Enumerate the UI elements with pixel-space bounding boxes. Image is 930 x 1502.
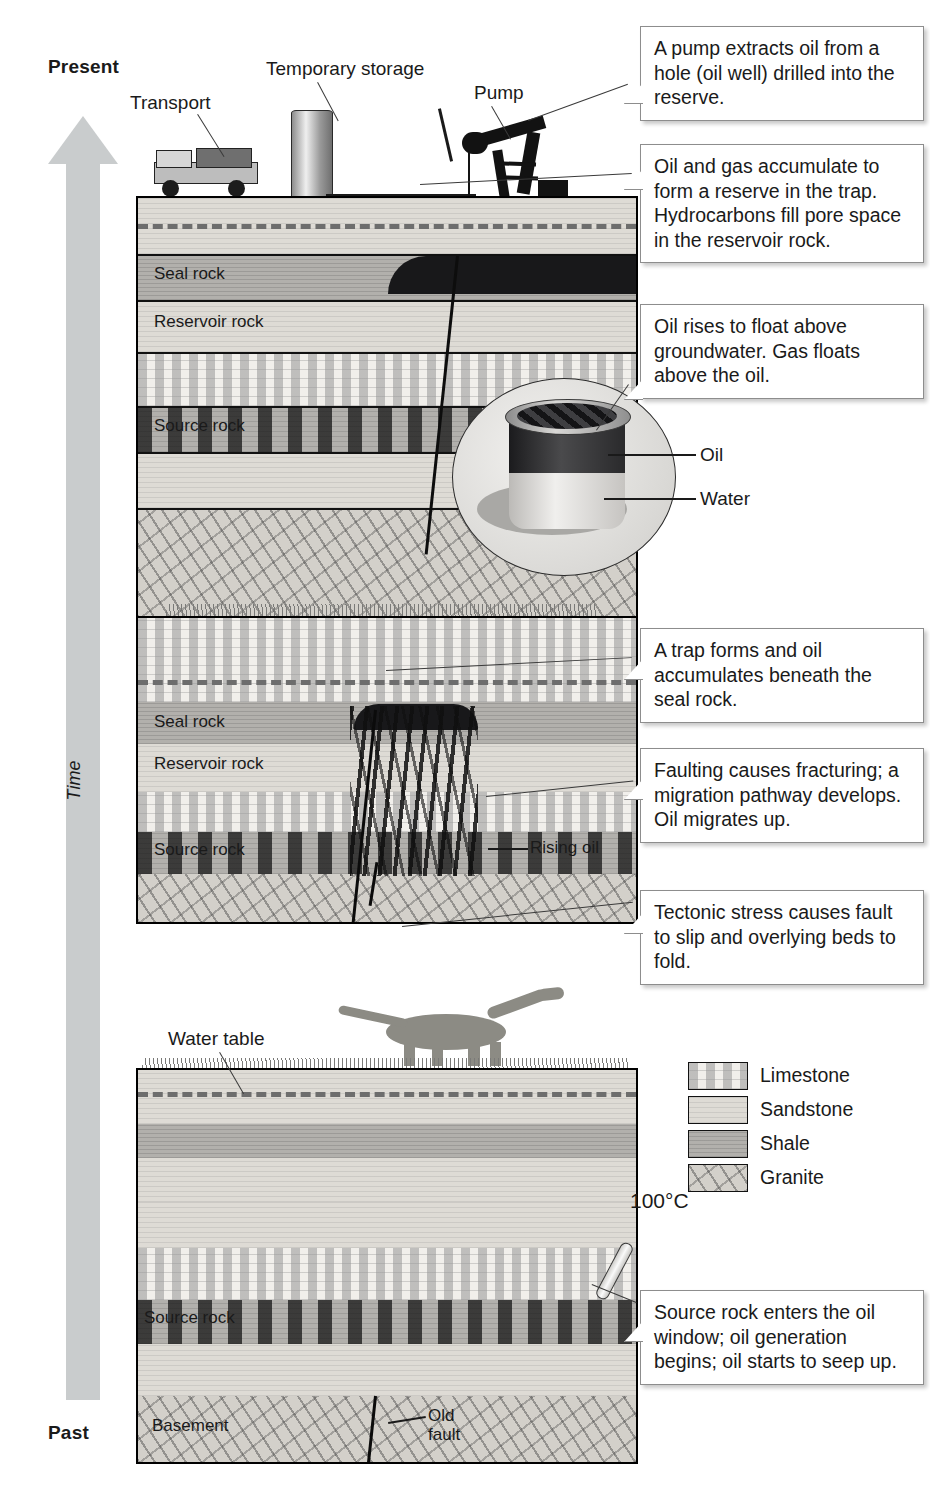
callout-oil-window: Source rock enters the oil window; oil g…: [640, 1290, 924, 1385]
rock-label-seal-rock: Seal rock: [154, 264, 225, 284]
callout-oil-window-text: Source rock enters the oil window; oil g…: [654, 1301, 897, 1372]
label-water-table: Water table: [168, 1028, 264, 1050]
label-temporary-storage: Temporary storage: [266, 58, 424, 80]
callout-trap-text: A trap forms and oil accumulates beneath…: [654, 639, 872, 710]
storage-tank-icon: [291, 110, 333, 200]
water-table-line: [138, 1092, 636, 1097]
rock-label-seal-rock: Seal rock: [154, 712, 225, 732]
water-table-line: [138, 224, 636, 229]
legend-item-sandstone: Sandstone: [688, 1094, 853, 1125]
rock-label-reservoir-rock: Reservoir rock: [154, 754, 264, 774]
legend-item-shale: Shale: [688, 1128, 853, 1159]
legend-item-limestone: Limestone: [688, 1060, 853, 1091]
time-axis-label: Time: [64, 721, 85, 841]
rock-label-source-rock: Source rock: [154, 416, 245, 436]
callout-faulting-text: Faulting causes fracturing; a migration …: [654, 759, 901, 830]
time-axis: Present Time Past: [0, 0, 130, 1502]
callout-faulting: Faulting causes fracturing; a migration …: [640, 748, 924, 843]
callout-pump-text: A pump extracts oil from a hole (oil wel…: [654, 37, 895, 108]
rock-label-source-rock: Source rock: [144, 1308, 235, 1328]
rock-label-source-rock: Source rock: [154, 840, 245, 860]
past-label: Past: [48, 1422, 89, 1444]
label-oil: Oil: [700, 444, 723, 466]
legend-item-granite: Granite: [688, 1162, 853, 1193]
legend-label-shale: Shale: [760, 1132, 810, 1155]
transport-truck-icon: [150, 148, 260, 196]
callout-tectonics: Tectonic stress causes fault to slip and…: [640, 890, 924, 985]
legend-swatch-shale: [688, 1130, 748, 1158]
panel-past: Source rock Basement Old fault Water tab…: [136, 1000, 634, 1460]
legend-label-sandstone: Sandstone: [760, 1098, 853, 1121]
oil-water-beaker-inset: [452, 378, 676, 576]
pump-motion-arrow-icon: [438, 108, 453, 161]
oil-gas-reserve: [388, 256, 636, 294]
callout-buoyancy: Oil rises to float above groundwater. Ga…: [640, 304, 924, 399]
legend-label-granite: Granite: [760, 1166, 824, 1189]
cross-section-trap: Seal rock Reservoir rock Source rock Ris…: [136, 616, 638, 924]
callout-buoyancy-text: Oil rises to float above groundwater. Ga…: [654, 315, 860, 386]
temperature-label: 100°C: [630, 1189, 689, 1213]
pumpjack-icon: [460, 106, 570, 202]
rock-label-old-fault: Old fault: [428, 1406, 460, 1444]
label-water: Water: [700, 488, 750, 510]
rock-type-legend: Limestone Sandstone Shale Granite: [688, 1060, 853, 1196]
water-table-line: [138, 680, 636, 685]
leader-oil: [608, 454, 696, 456]
legend-label-limestone: Limestone: [760, 1064, 850, 1087]
callout-reserve-text: Oil and gas accumulate to form a reserve…: [654, 155, 901, 251]
rock-label-rising-oil: Rising oil: [530, 838, 599, 858]
oil-migration-plume: [350, 706, 478, 876]
callout-reserve: Oil and gas accumulate to form a reserve…: [640, 144, 924, 263]
cross-section-past: Source rock Basement Old fault: [136, 1068, 638, 1464]
beaker-oil-surface: [517, 403, 617, 429]
present-label: Present: [48, 56, 119, 78]
time-arrow-head-icon: [48, 116, 118, 164]
callout-tectonics-text: Tectonic stress causes fault to slip and…: [654, 901, 896, 972]
rock-label-basement: Basement: [152, 1416, 229, 1436]
label-transport: Transport: [130, 92, 211, 114]
panel-trap-forms: Seal rock Reservoir rock Source rock Ris…: [136, 600, 634, 920]
leader-water: [604, 498, 696, 500]
sauropod-dinosaur-icon: [346, 992, 586, 1066]
legend-swatch-limestone: [688, 1062, 748, 1090]
legend-swatch-granite: [688, 1164, 748, 1192]
legend-swatch-sandstone: [688, 1096, 748, 1124]
callout-trap: A trap forms and oil accumulates beneath…: [640, 628, 924, 723]
rock-label-reservoir-rock: Reservoir rock: [154, 312, 264, 332]
callout-pump: A pump extracts oil from a hole (oil wel…: [640, 26, 924, 121]
label-pump: Pump: [474, 82, 524, 104]
leader-rising-oil: [488, 848, 528, 850]
